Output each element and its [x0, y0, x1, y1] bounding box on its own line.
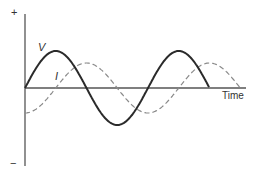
voltage-label: V [38, 42, 45, 53]
voltage-current-diagram: + − Time V I [0, 0, 260, 178]
y-negative-label: − [10, 158, 16, 169]
x-axis-label: Time [222, 91, 244, 101]
plot-area [0, 0, 260, 178]
y-positive-label: + [11, 7, 17, 18]
current-label: I [55, 71, 58, 82]
